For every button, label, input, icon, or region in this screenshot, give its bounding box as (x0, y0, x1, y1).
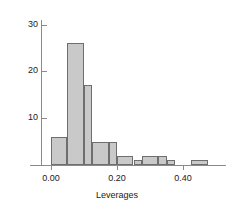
histogram-bar (191, 160, 208, 165)
histogram-bar (117, 156, 134, 165)
histogram-bar (109, 142, 117, 165)
histogram-bar (142, 156, 159, 165)
histogram-figure: 102030 0.000.200.40 Leverages (0, 0, 234, 212)
histogram-bar (92, 142, 109, 165)
histogram-bar (134, 160, 142, 165)
histogram-bar (67, 43, 84, 165)
histogram-bar (51, 137, 68, 165)
histogram-bar (84, 85, 92, 165)
histogram-bar (158, 156, 166, 165)
histogram-bar (167, 160, 175, 165)
histogram-bars (0, 0, 234, 212)
plot-area: 102030 0.000.200.40 Leverages (0, 0, 234, 212)
x-axis-title: Leverages (0, 190, 234, 200)
